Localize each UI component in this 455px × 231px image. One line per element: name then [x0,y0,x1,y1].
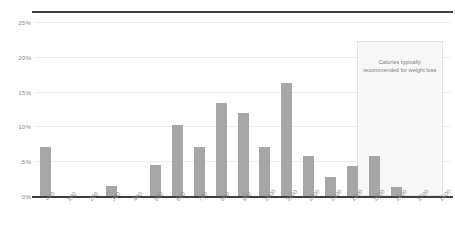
bar-series [35,22,451,196]
bar [216,103,227,196]
bar [40,147,51,196]
bar [194,147,205,196]
y-axis-tick-label: 0% [3,193,31,200]
y-axis-tick-label: 20% [3,53,31,60]
top-border-rule [32,11,453,13]
y-axis-tick-label: 5% [3,158,31,165]
bar [172,125,183,196]
y-axis-tick-labels: 0%5%10%15%20%25% [0,0,31,231]
y-axis-tick-label: 10% [3,123,31,130]
bar [259,147,270,196]
x-axis-tick-labels: <=01002003004005006007008009001000110012… [35,198,451,231]
bar [238,113,249,196]
bar [281,83,292,196]
y-axis-tick-label: 15% [3,88,31,95]
bar [303,156,314,196]
bar-chart: Calories typically recommended for weigh… [0,0,455,231]
y-axis-tick-label: 25% [3,19,31,26]
